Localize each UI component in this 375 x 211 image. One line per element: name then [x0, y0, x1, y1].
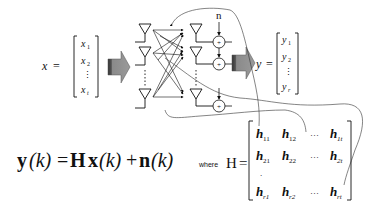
svg-text:+: +: [217, 103, 221, 111]
svg-text:y: y: [255, 57, 262, 71]
svg-text:⋮: ⋮: [284, 67, 293, 77]
svg-text:…: …: [310, 128, 319, 138]
svg-text:21: 21: [263, 157, 271, 165]
svg-text:=: =: [266, 57, 273, 71]
svg-text:…: …: [310, 186, 319, 196]
svg-text:⋮: ⋮: [83, 70, 92, 80]
svg-text:y: y: [17, 149, 27, 172]
where-label: where: [198, 161, 218, 168]
svg-text:x: x: [80, 84, 86, 95]
system-equation: y (k) = H x (k) + n (k): [17, 149, 174, 172]
svg-text:rt: rt: [337, 193, 343, 201]
input-block-arrow: [108, 51, 130, 83]
svg-text:x: x: [80, 55, 86, 66]
svg-text:=: =: [53, 59, 60, 73]
svg-text:x: x: [41, 59, 48, 73]
noise-adders: [213, 22, 232, 112]
svg-text:n: n: [139, 149, 150, 171]
svg-text:2t: 2t: [337, 157, 344, 165]
svg-text:(k): (k): [151, 149, 174, 172]
output-block-arrow: [232, 47, 255, 79]
matrix-equals: =: [239, 155, 247, 171]
input-vector-text: x = x 1 x 2 ⋮ x t: [41, 38, 92, 96]
svg-text:y: y: [281, 81, 287, 92]
svg-text:1: 1: [87, 44, 90, 50]
output-vector-text: y = y 1 y 2 ⋮ y r: [255, 34, 293, 93]
svg-text:11: 11: [263, 135, 270, 143]
svg-text:…: …: [310, 150, 319, 160]
svg-text:22: 22: [289, 157, 297, 165]
svg-text:r: r: [288, 87, 291, 93]
input-vector-brackets: [74, 36, 98, 97]
svg-text:1t: 1t: [337, 135, 344, 143]
receive-antennas: [190, 24, 213, 106]
svg-text:y: y: [281, 34, 287, 45]
svg-text:(k): (k): [99, 149, 122, 172]
transmit-antennas: [135, 24, 151, 108]
noise-label: n: [216, 9, 222, 21]
svg-text:t: t: [87, 90, 89, 96]
svg-text:=: =: [57, 149, 68, 171]
svg-text:H: H: [70, 149, 86, 171]
matrix-name: H: [226, 155, 237, 171]
svg-text:y: y: [281, 51, 287, 62]
svg-text:r1: r1: [263, 193, 269, 201]
svg-text:(k): (k): [29, 149, 52, 172]
channel-paths: [153, 30, 183, 97]
svg-text:.: .: [260, 168, 262, 178]
svg-text:+: +: [217, 61, 221, 69]
svg-text:+: +: [126, 149, 137, 171]
svg-text:12: 12: [289, 135, 297, 143]
channel-matrix: h 11 h 12 … h 1t h 21 h 22 … h 2t . h r1…: [256, 126, 344, 201]
svg-text:2: 2: [288, 57, 291, 63]
svg-text:1: 1: [288, 40, 291, 46]
mimo-diagram: + + + x = x 1 x 2 ⋮ x t n y = y 1: [0, 0, 375, 211]
svg-text:x: x: [80, 38, 86, 49]
svg-text:r2: r2: [289, 193, 296, 201]
svg-text:x: x: [88, 149, 98, 171]
svg-text:+: +: [217, 39, 221, 47]
svg-text:2: 2: [87, 61, 90, 67]
